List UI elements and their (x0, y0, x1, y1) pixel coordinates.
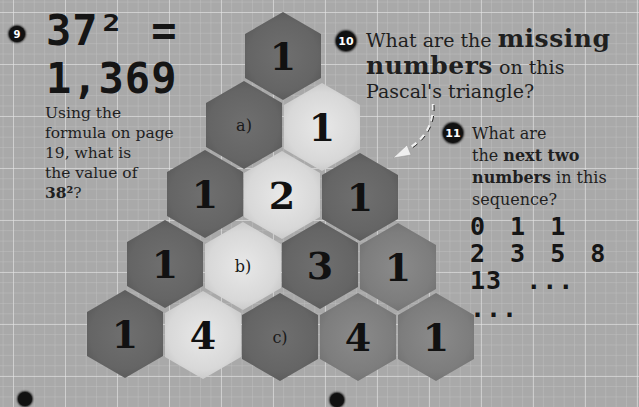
hex-row5-3-missing-c: c) (242, 293, 318, 381)
partial-badge-middle (330, 393, 344, 407)
partial-badge-left (18, 392, 32, 406)
hex-row2-2: 1 (284, 83, 360, 171)
question-10-text: What are the missing numbers on this Pas… (366, 26, 636, 102)
hex-row5-5: 1 (398, 293, 474, 381)
hex-row4-1: 1 (127, 220, 203, 308)
hex-value: 1 (270, 34, 296, 79)
q10-bold-numbers: numbers (366, 51, 493, 80)
hex-value: 3 (307, 243, 333, 288)
hex-value: 1 (152, 242, 178, 287)
q9-question-mark: ? (73, 184, 81, 202)
q9-line-2: formula on page (45, 123, 215, 143)
equation-line-2: 1,369 (46, 56, 177, 102)
equation-line-1: 37² = (46, 8, 177, 54)
hex-value: 1 (385, 245, 411, 290)
hex-row4-3: 3 (282, 221, 358, 309)
q10-bold-missing: missing (498, 24, 611, 53)
hex-value: 4 (190, 313, 216, 358)
hex-value: 1 (112, 312, 138, 357)
q10-text-mid: on this (493, 56, 564, 78)
hex-value: 4 (345, 315, 371, 360)
q11-bold-next-two: next two (503, 146, 579, 165)
sequence-line-2: 2 3 5 8 (470, 240, 606, 268)
hex-row4-2-missing-b: b) (205, 222, 281, 310)
q11-line-4: sequence? (472, 189, 637, 211)
question-9-badge: 9 (9, 26, 25, 42)
q10-text-pre: What are the (366, 29, 498, 51)
sequence-line-1: 0 1 1 (470, 213, 566, 241)
q11-bold-numbers: numbers (472, 168, 551, 187)
hex-row5-4: 4 (320, 293, 396, 381)
hex-row5-2: 4 (165, 291, 241, 379)
missing-label-b: b) (235, 257, 251, 276)
sequence-line-3: 13 ... ... (470, 267, 639, 323)
q9-bold-value: 38² (45, 183, 73, 202)
hex-value: 1 (192, 172, 218, 217)
question-11-badge: 11 (443, 123, 463, 143)
question-10-badge: 10 (336, 31, 356, 51)
hex-row2-1-missing-a: a) (206, 81, 282, 169)
q10-line-3: Pascal's triangle? (366, 80, 636, 102)
hex-row5-1: 1 (87, 290, 163, 378)
q11-text-mid: in this (551, 168, 607, 187)
missing-label-a: a) (236, 116, 252, 135)
hex-value: 1 (347, 175, 373, 220)
hex-row3-2: 2 (244, 151, 320, 239)
q11-line-1: What are (472, 123, 637, 145)
q11-text-pre: the (472, 146, 503, 165)
hex-row1-1: 1 (245, 12, 321, 100)
hex-value: 1 (309, 105, 335, 150)
hex-value: 1 (423, 315, 449, 360)
dashed-arrow-icon (385, 100, 445, 170)
hex-value: 2 (269, 173, 295, 218)
missing-label-c: c) (272, 328, 287, 347)
hex-row4-4: 1 (360, 223, 436, 311)
question-11-text: What are the next two numbers in this se… (472, 123, 637, 211)
q9-line-1: Using the (45, 103, 215, 123)
